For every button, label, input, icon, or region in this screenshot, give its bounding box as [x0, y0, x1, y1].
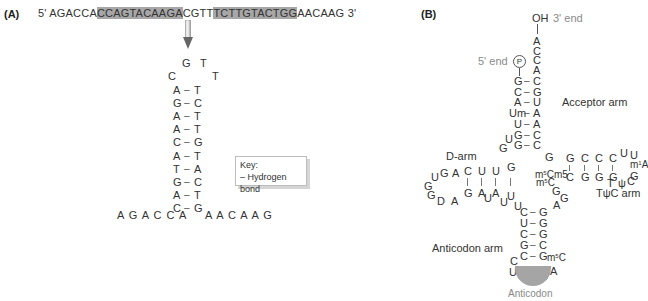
anticodon-arm-label: Anticodon arm: [432, 243, 503, 254]
nucleotide: U: [484, 193, 492, 204]
pair-left: A: [173, 85, 180, 96]
d-loop-base: G: [427, 190, 436, 201]
key-hydrogen-bond: – Hydrogen bond: [240, 171, 302, 195]
hydrogen-bond: –: [184, 164, 190, 174]
five-prime-label: 5': [38, 7, 47, 19]
pair-left: G: [173, 177, 182, 188]
anticodon-highlight: [515, 266, 551, 286]
nucleotide: U: [478, 166, 486, 177]
hydrogen-bond: –: [184, 151, 190, 161]
nucleotide: C: [464, 166, 472, 177]
acceptor-arm-label: Acceptor arm: [562, 97, 627, 108]
hydrogen-bond: –: [524, 108, 530, 118]
three-prime-label: 3': [348, 7, 357, 19]
hydrogen-bond: –: [524, 119, 530, 129]
nucleotide: G: [581, 172, 590, 183]
seq-segment-highlight: TCTTGTACTGG: [213, 7, 297, 19]
d-loop-base: A: [452, 168, 459, 179]
hydrogen-bond: [495, 178, 496, 186]
hydrogen-bond: [481, 178, 482, 186]
pair-right: T: [194, 151, 201, 162]
pair-right: T: [194, 111, 201, 122]
pair-left: A: [173, 111, 180, 122]
hydrogen-bond: –: [184, 111, 190, 121]
loop-base: T: [212, 71, 219, 82]
hydrogen-bond: –: [524, 87, 530, 97]
pair-right: T: [194, 124, 201, 135]
nucleotide: G: [560, 193, 569, 204]
acceptor-right: C: [533, 140, 541, 151]
hydrogen-bond: –: [184, 137, 190, 147]
nucleotide: A: [550, 266, 557, 277]
anticodon-label: Anticodon: [508, 289, 552, 299]
nucleotide: G: [595, 172, 604, 183]
loop-base: T: [200, 58, 207, 69]
tpsic-loop-base: C: [627, 176, 635, 187]
nucleotide: G: [545, 152, 554, 163]
seq-segment-highlight: CCAGTACAAGA: [97, 7, 183, 19]
pair-left: C: [173, 137, 181, 148]
hydrogen-bond: –: [524, 76, 530, 86]
key-title: Key:: [240, 159, 302, 171]
hydrogen-bond: –: [524, 130, 530, 140]
tpsic-loop-base: m1A: [630, 160, 648, 170]
oh-group: OH: [532, 13, 549, 24]
nucleotide: G: [507, 162, 516, 173]
d-loop-base: G: [440, 168, 449, 179]
five-prime-end-label: 5' end: [478, 56, 508, 67]
pair-left: A: [173, 190, 180, 201]
pair-right: T: [194, 85, 201, 96]
panel-a-label: (A): [4, 9, 19, 20]
oh-link: [537, 24, 538, 34]
nucleotide: U: [500, 197, 508, 208]
acceptor-left: G: [514, 140, 523, 151]
hydrogen-bond: –: [524, 97, 530, 107]
hairpin-tail-right: A A C A A G: [205, 210, 273, 221]
nucleotide: C: [581, 153, 589, 164]
modified-base: m5C: [547, 253, 566, 263]
hydrogen-bond: –: [184, 98, 190, 108]
pair-left: A: [173, 151, 180, 162]
three-prime-end-label: 3' end: [553, 13, 583, 24]
seq-segment: AACAAG: [297, 7, 344, 19]
hydrogen-bond: –: [530, 251, 536, 261]
nucleotide: C: [595, 153, 603, 164]
hydrogen-bond: –: [530, 218, 536, 228]
nucleotide: G: [566, 153, 575, 164]
hydrogen-bond: –: [184, 124, 190, 134]
panel-b-label: (B): [421, 9, 436, 20]
d-loop-base: D: [437, 196, 445, 207]
nucleotide: A: [492, 188, 499, 199]
pair-left: T: [173, 164, 180, 175]
hydrogen-bond: –: [184, 85, 190, 95]
hydrogen-bond: –: [530, 229, 536, 239]
nucleotide: C: [609, 153, 617, 164]
hydrogen-bond: –: [184, 177, 190, 187]
hydrogen-bond: [510, 178, 511, 186]
seq-segment: CGTT: [183, 7, 214, 19]
tpsic-arm-label: TψC arm: [596, 188, 641, 199]
acceptor-tail-base: A: [533, 65, 540, 76]
pair-right: G: [194, 137, 203, 148]
d-loop-base: A: [451, 196, 458, 207]
anticodon-stem-left: C: [520, 251, 528, 262]
pair-left: A: [173, 124, 180, 135]
hairpin-tail-left: A G A C C A: [117, 210, 187, 221]
loop-base: G: [182, 58, 191, 69]
d-arm-label: D-arm: [446, 151, 477, 162]
nucleotide: U: [505, 134, 513, 145]
pair-right: G: [194, 203, 203, 214]
loop-base: C: [168, 71, 176, 82]
hydrogen-bond: –: [184, 190, 190, 200]
pair-left: G: [173, 98, 182, 109]
phosphate-icon: P: [513, 55, 526, 68]
hydrogen-bond: –: [530, 240, 536, 250]
hydrogen-bond: [467, 178, 468, 186]
pair-right: T: [194, 190, 201, 201]
pair-right: A: [194, 164, 201, 175]
down-arrow-icon: [183, 20, 193, 50]
nucleotide: U: [492, 166, 500, 177]
hydrogen-bond: –: [530, 207, 536, 217]
key-legend: Key: – Hydrogen bond: [235, 156, 307, 186]
pair-right: C: [194, 98, 202, 109]
